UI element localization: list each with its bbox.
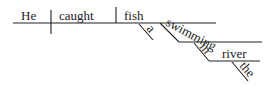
- word-object: fish: [124, 8, 144, 23]
- word-verb: caught: [59, 8, 94, 23]
- word-subject: He: [21, 8, 36, 23]
- word-prep-object: river: [222, 46, 247, 61]
- sentence-diagram: He caught fish a swimming in river the: [0, 0, 275, 86]
- word-prep-object-modifier: the: [237, 58, 259, 80]
